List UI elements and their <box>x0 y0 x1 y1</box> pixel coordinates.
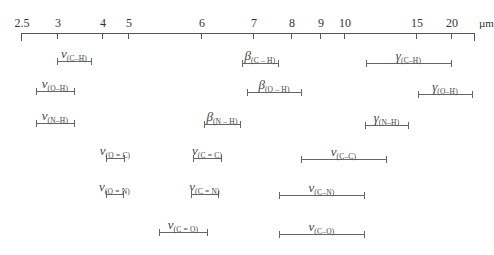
band-label: ν(C = N) <box>189 177 220 196</box>
bond-group-subscript: (C–H) <box>401 56 421 65</box>
axis-tick-label: 7 <box>251 16 257 31</box>
bond-group-subscript: (O–H) <box>437 87 458 96</box>
band-label: ν(O = N) <box>99 177 130 196</box>
axis-tick <box>416 33 417 39</box>
bond-group-subscript: (C–N) <box>314 188 334 197</box>
axis-tick-label: 8 <box>289 16 295 31</box>
axis-tick-label: 9 <box>318 16 324 31</box>
band-label: γ(N–H) <box>374 108 400 127</box>
band-label: ν(O–H) <box>42 74 68 93</box>
bond-group-subscript: (O = C) <box>105 151 130 160</box>
axis-tick <box>102 33 103 39</box>
bond-group-subscript: (C–C) <box>337 152 357 161</box>
axis-tick <box>320 33 321 39</box>
bond-group-subscript: (N – H) <box>213 117 238 126</box>
band-label: ν(O = C) <box>100 141 131 160</box>
axis-tick <box>344 33 345 39</box>
band-label: ν(C = O) <box>168 215 199 234</box>
unit-label: µm <box>479 17 494 29</box>
axis-tick-label: 20 <box>446 16 458 31</box>
band-label: γ(C–H) <box>396 46 421 65</box>
band-label: β(O – H) <box>258 75 289 94</box>
axis-tick-label: 3 <box>55 16 61 31</box>
band-label: β(N – H) <box>206 107 237 126</box>
axis-tick-label: 10 <box>339 16 351 31</box>
axis-tick <box>291 33 292 39</box>
bond-group-subscript: (C–O) <box>314 227 334 236</box>
band-label: ν(N–H) <box>42 106 68 125</box>
bond-group-subscript: (C = N) <box>195 187 220 196</box>
axis-tick-label: 4 <box>100 16 106 31</box>
ir-correlation-diagram: 2.53456789101520 µm ν(C–H)β(C – H)γ(C–H)… <box>0 0 494 255</box>
axis-tick-label: 5 <box>126 16 132 31</box>
axis-tick <box>253 33 254 39</box>
axis-tick <box>57 33 58 39</box>
band-label: ν(C–N) <box>309 178 335 197</box>
axis-tick-label: 15 <box>411 16 423 31</box>
bond-group-subscript: (C = C) <box>198 151 222 160</box>
bond-group-subscript: (C–H) <box>67 54 87 63</box>
axis-tick <box>201 33 202 39</box>
axis-tick <box>21 33 22 41</box>
axis-tick <box>128 33 129 39</box>
bond-group-subscript: (O–H) <box>48 84 69 93</box>
band-label: ν(C = C) <box>192 141 222 160</box>
band-label: ν(C–C) <box>331 142 357 161</box>
bond-group-subscript: (N–H) <box>48 116 69 125</box>
axis-tick-label: 2.5 <box>15 16 30 31</box>
axis-line <box>21 33 475 34</box>
axis-tick <box>451 33 452 39</box>
bond-group-subscript: (N–H) <box>379 118 400 127</box>
axis-tick-label: 6 <box>199 16 205 31</box>
bond-group-subscript: (C – H) <box>251 56 275 65</box>
band-label: γ(O–H) <box>432 77 458 96</box>
bond-group-subscript: (C = O) <box>173 225 198 234</box>
axis-tick <box>474 33 475 41</box>
bond-group-subscript: (O – H) <box>265 85 290 94</box>
band-label: ν(C–H) <box>61 44 87 63</box>
bond-group-subscript: (O = N) <box>105 187 130 196</box>
band-label: ν(C–O) <box>309 217 335 236</box>
band-label: β(C – H) <box>245 46 276 65</box>
